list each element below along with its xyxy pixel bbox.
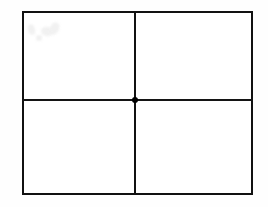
quadrant-bottom-left[interactable] xyxy=(24,102,135,193)
quadrant-top-right[interactable] xyxy=(137,13,251,100)
center-point-marker xyxy=(132,97,139,104)
quadrant-top-left[interactable] xyxy=(24,13,135,100)
vertical-divider xyxy=(134,11,136,195)
figure-canvas xyxy=(0,0,268,207)
quadrant-bottom-right[interactable] xyxy=(137,102,251,193)
